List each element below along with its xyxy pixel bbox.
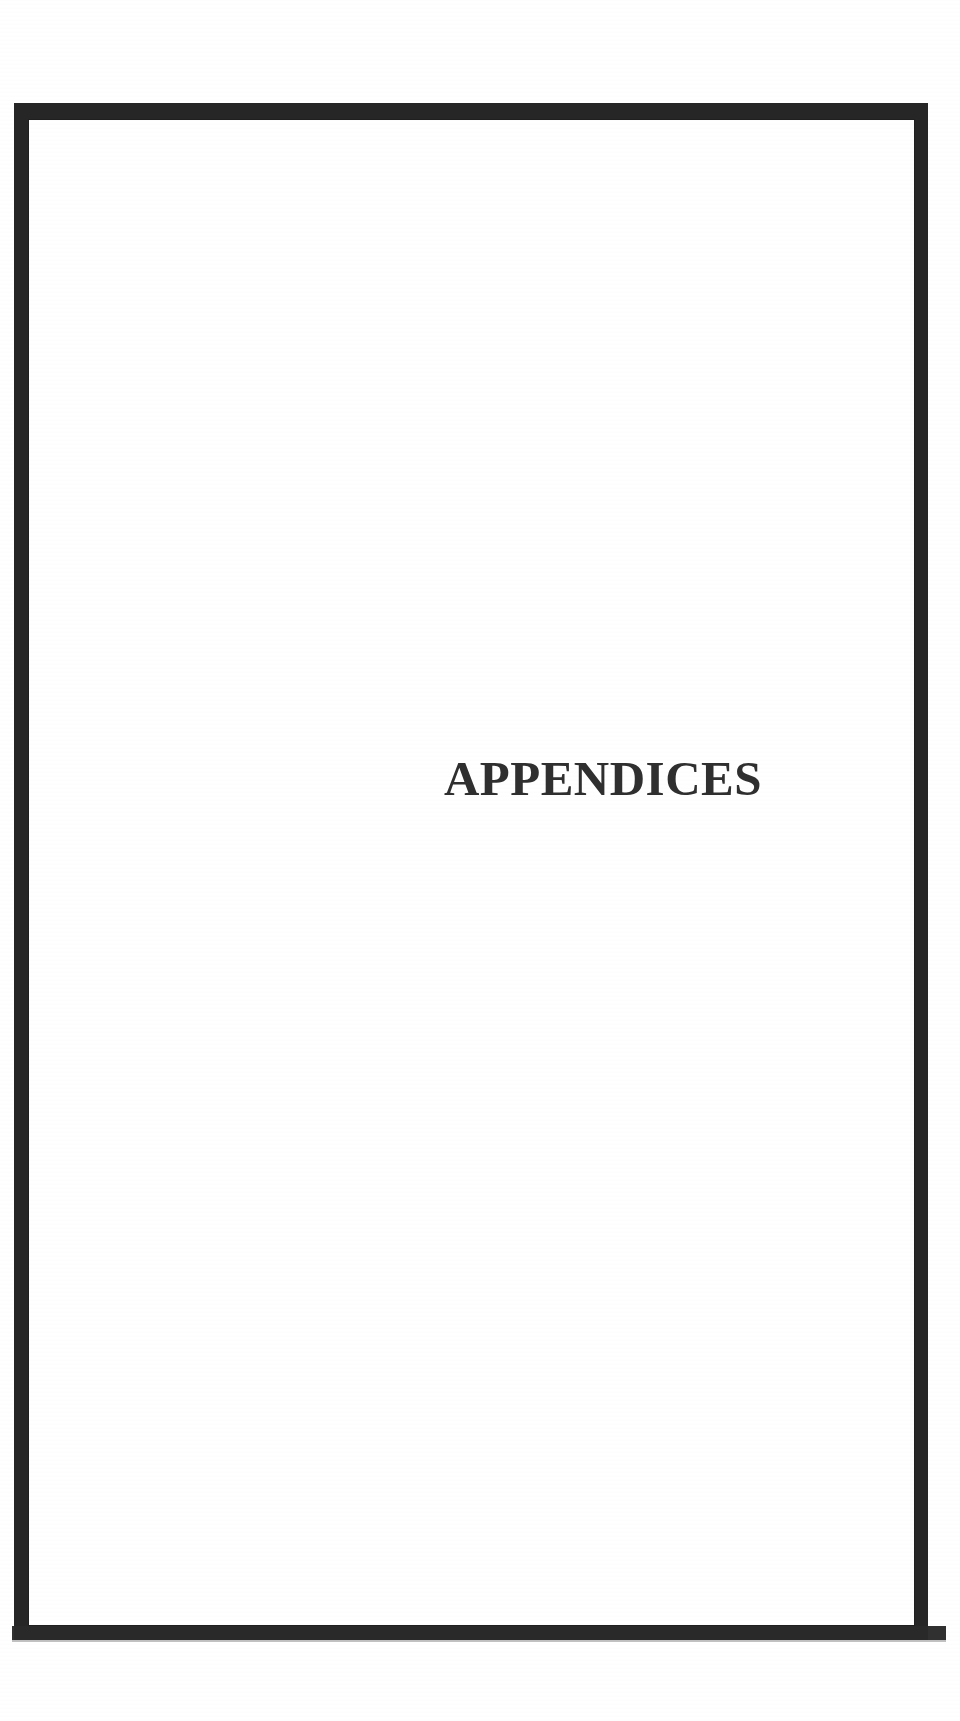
page-border-rule xyxy=(14,103,928,1640)
scan-edge-shadow xyxy=(12,1626,946,1640)
scanned-page: APPENDICES xyxy=(0,0,960,1721)
page-title: APPENDICES xyxy=(0,752,762,806)
